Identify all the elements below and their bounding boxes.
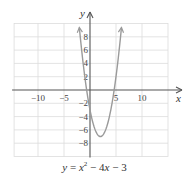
svg-text:6: 6 xyxy=(84,45,89,55)
svg-text:−8: −8 xyxy=(78,138,88,148)
equation-caption: y = x2 − 4x − 3 xyxy=(0,160,189,173)
svg-text:−10: −10 xyxy=(31,93,46,103)
svg-text:10: 10 xyxy=(138,93,148,103)
svg-text:−2: −2 xyxy=(78,98,88,108)
svg-text:−6: −6 xyxy=(78,125,88,135)
caption-equals: = xyxy=(67,161,79,173)
svg-text:8: 8 xyxy=(84,32,89,42)
caption-term: − 4 xyxy=(87,161,104,173)
y-axis-label: y xyxy=(79,7,85,19)
svg-text:5: 5 xyxy=(114,93,119,103)
parabola-graph: −10−55108642−2−4−6−8 x y xyxy=(0,0,189,183)
svg-text:−5: −5 xyxy=(59,93,69,103)
axes xyxy=(12,12,182,158)
caption-const: − 3 xyxy=(109,161,126,173)
x-axis-label: x xyxy=(175,92,181,104)
svg-text:−4: −4 xyxy=(78,112,88,122)
